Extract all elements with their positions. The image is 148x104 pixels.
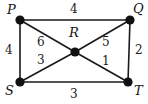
graph-vertex-q	[125, 15, 134, 24]
graph-vertex-s	[15, 77, 24, 86]
graph-edge-q-t	[128, 20, 130, 82]
graph-vertex-r	[70, 47, 79, 56]
graph-vertex-p	[15, 15, 24, 24]
vertex-label-t: T	[134, 84, 143, 97]
edge-weight-s-t: 3	[70, 88, 78, 100]
edge-weight-q-r: 5	[102, 36, 110, 48]
weighted-graph-diagram: PQRST 44236351	[0, 0, 148, 104]
vertex-label-p: P	[7, 3, 16, 16]
edge-weight-p-q: 4	[70, 3, 78, 15]
graph-edge-s-r	[20, 52, 75, 82]
edge-weight-p-s: 4	[5, 44, 13, 56]
edge-weight-q-t: 2	[135, 44, 143, 56]
edge-weight-s-r: 3	[37, 54, 45, 66]
vertex-label-r: R	[69, 26, 79, 39]
edge-weight-t-r: 1	[102, 55, 110, 67]
edge-weight-p-r: 6	[37, 36, 45, 48]
vertex-label-q: Q	[133, 2, 144, 15]
graph-vertex-t	[123, 77, 132, 86]
graph-edge-p-r	[20, 20, 75, 52]
vertex-label-s: S	[5, 84, 14, 97]
